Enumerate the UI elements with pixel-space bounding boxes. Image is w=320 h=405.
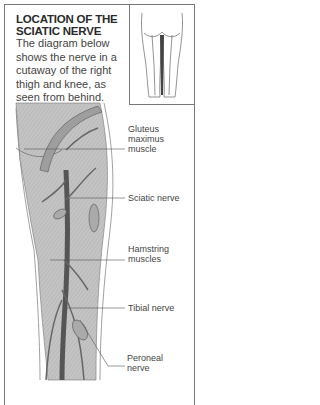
label-line: maximus <box>128 134 164 144</box>
label-sciatic-nerve: Sciatic nerve <box>128 193 180 203</box>
label-hamstring-muscles: Hamstring muscles <box>128 244 169 264</box>
label-tibial-nerve: Tibial nerve <box>128 303 174 313</box>
label-line: Gluteus <box>128 124 164 134</box>
label-line: Hamstring <box>128 244 169 254</box>
label-line: muscles <box>128 254 169 264</box>
label-line: nerve <box>127 363 163 373</box>
label-gluteus-maximus: Gluteus maximus muscle <box>128 124 164 154</box>
label-line: muscle <box>128 144 164 154</box>
label-peroneal-nerve: Peroneal nerve <box>127 353 163 373</box>
label-line: Peroneal <box>127 353 163 363</box>
